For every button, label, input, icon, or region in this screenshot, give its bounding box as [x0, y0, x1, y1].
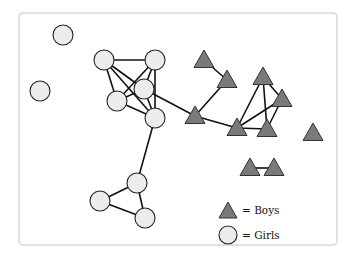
girl-node-circle-icon — [53, 25, 73, 45]
girl-node-circle-icon — [107, 91, 127, 111]
girl-node-circle-icon — [145, 108, 165, 128]
diagram-frame — [19, 13, 337, 245]
girl-node-circle-icon — [134, 79, 154, 99]
legend-girls-label: = Girls — [242, 229, 280, 241]
girl-node-circle-icon — [30, 81, 50, 101]
girl-node-circle-icon — [145, 50, 165, 70]
girl-node-circle-icon — [94, 50, 114, 70]
girl-node-circle-icon — [135, 208, 155, 228]
girl-node-circle-icon — [127, 173, 147, 193]
network-diagram: = Boys = Girls — [0, 0, 353, 255]
legend-girl-circle-icon — [219, 226, 237, 244]
girl-node-circle-icon — [90, 191, 110, 211]
legend-boys-label: = Boys — [242, 204, 280, 216]
